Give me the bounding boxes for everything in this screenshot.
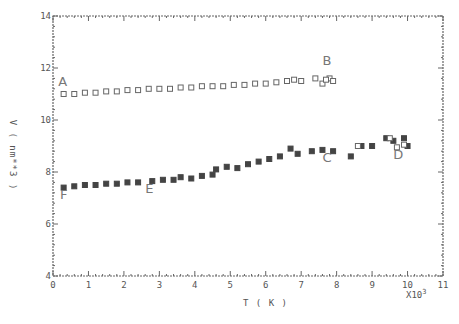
- filled-square-marker: [309, 149, 314, 154]
- annotation-label-a: A: [58, 74, 67, 89]
- y-tick-label: 12: [40, 63, 51, 73]
- filled-square-marker: [125, 180, 130, 185]
- open-square-marker: [199, 84, 204, 89]
- open-square-marker: [221, 84, 226, 89]
- filled-square-marker: [348, 154, 353, 159]
- filled-square-marker: [93, 183, 98, 188]
- scatter-plot: 01234567891011468101214ABCDEF: [0, 0, 459, 324]
- open-square-marker: [114, 89, 119, 94]
- y-tick-label: 14: [40, 11, 51, 21]
- filled-square-marker: [189, 176, 194, 181]
- filled-square-marker: [224, 164, 229, 169]
- annotation-label-f: F: [60, 187, 67, 202]
- open-square-marker: [331, 79, 336, 84]
- x-tick-label: 5: [228, 280, 233, 290]
- open-square-marker: [168, 86, 173, 91]
- filled-square-marker: [104, 181, 109, 186]
- x-scale-note: X103: [406, 288, 426, 300]
- filled-square-marker: [114, 181, 119, 186]
- open-square-marker: [324, 77, 329, 82]
- filled-square-marker: [288, 146, 293, 151]
- open-square-marker: [82, 90, 87, 95]
- x-tick-label: 9: [369, 280, 374, 290]
- y-tick-label: 6: [46, 219, 51, 229]
- open-square-marker: [242, 82, 247, 87]
- open-square-marker: [210, 84, 215, 89]
- filled-square-marker: [235, 166, 240, 171]
- open-square-marker: [285, 79, 290, 84]
- open-square-marker: [104, 89, 109, 94]
- open-square-marker: [93, 90, 98, 95]
- filled-square-marker: [277, 154, 282, 159]
- open-square-marker: [189, 85, 194, 90]
- y-axis-label: V ( nm**3 ): [8, 120, 18, 191]
- filled-square-marker: [171, 177, 176, 182]
- open-square-marker: [263, 81, 268, 86]
- x-tick-label: 8: [334, 280, 339, 290]
- annotation-label-c: C: [322, 150, 331, 165]
- open-square-marker: [292, 77, 297, 82]
- filled-square-marker: [267, 157, 272, 162]
- x-tick-label: 7: [298, 280, 303, 290]
- filled-square-marker: [72, 184, 77, 189]
- filled-square-marker: [210, 172, 215, 177]
- filled-square-marker: [402, 136, 407, 141]
- open-square-marker: [253, 81, 258, 86]
- open-square-marker: [355, 144, 360, 149]
- x-tick-label: 11: [438, 280, 449, 290]
- open-square-marker: [146, 86, 151, 91]
- y-tick-label: 4: [46, 271, 51, 281]
- annotation-label-b: B: [322, 53, 331, 68]
- open-square-marker: [157, 86, 162, 91]
- x-tick-label: 0: [50, 280, 55, 290]
- x-tick-label: 2: [121, 280, 126, 290]
- x-tick-label: 4: [192, 280, 197, 290]
- open-square-marker: [274, 80, 279, 85]
- filled-square-marker: [136, 180, 141, 185]
- x-tick-label: 3: [157, 280, 162, 290]
- open-square-marker: [299, 79, 304, 84]
- filled-square-marker: [199, 173, 204, 178]
- y-tick-label: 10: [40, 115, 51, 125]
- open-square-marker: [61, 92, 66, 97]
- open-square-marker: [136, 88, 141, 93]
- annotation-label-e: E: [145, 181, 153, 196]
- filled-square-marker: [214, 167, 219, 172]
- filled-square-marker: [82, 183, 87, 188]
- open-square-marker: [313, 76, 318, 81]
- open-square-marker: [231, 82, 236, 87]
- plot-frame: [53, 16, 443, 276]
- filled-square-marker: [246, 162, 251, 167]
- filled-square-marker: [178, 175, 183, 180]
- filled-square-marker: [370, 144, 375, 149]
- filled-square-marker: [256, 159, 261, 164]
- x-tick-label: 6: [263, 280, 268, 290]
- x-tick-label: 1: [86, 280, 91, 290]
- annotation-label-d: D: [393, 147, 403, 162]
- x-axis-label: T ( K ): [243, 298, 288, 308]
- open-square-marker: [387, 136, 392, 141]
- filled-square-marker: [160, 177, 165, 182]
- filled-square-marker: [295, 151, 300, 156]
- open-square-marker: [178, 85, 183, 90]
- open-square-marker: [72, 92, 77, 97]
- y-tick-label: 8: [46, 167, 51, 177]
- open-square-marker: [125, 88, 130, 93]
